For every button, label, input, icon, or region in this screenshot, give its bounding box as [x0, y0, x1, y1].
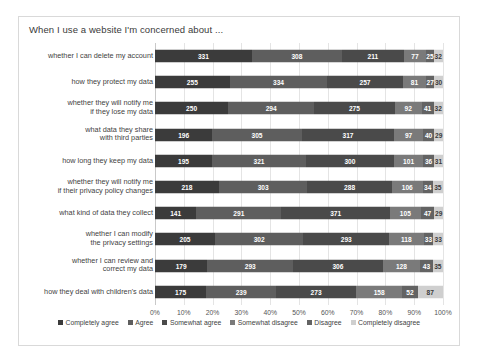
- x-tick-label: 60%: [321, 309, 335, 316]
- bar-segment: 106: [392, 181, 423, 194]
- legend-swatch-icon: [351, 320, 356, 325]
- category-label: what data they sharewith third parties: [25, 126, 153, 143]
- bar-segment: 43: [420, 259, 433, 272]
- bar-segment: 291: [196, 207, 281, 220]
- bar-segment: 52: [402, 285, 417, 298]
- legend-label: Somewhat agree: [170, 319, 221, 326]
- bar-segment: 32: [434, 102, 443, 115]
- category-label: whether I can delete my account: [25, 52, 153, 61]
- bar-segment: 77: [404, 50, 427, 63]
- bar-segment: 141: [155, 207, 196, 220]
- x-tick-label: 70%: [350, 309, 364, 316]
- bar-segment: 87: [418, 285, 443, 298]
- legend-item[interactable]: Somewhat disagree: [230, 319, 298, 326]
- x-tick-label: 30%: [235, 309, 249, 316]
- stacked-bar: 255334257812730: [155, 76, 443, 89]
- bar-segment: 293: [207, 259, 293, 272]
- bar-segment: 294: [228, 102, 314, 115]
- legend-label: Completely agree: [65, 319, 118, 326]
- legend-swatch-icon: [307, 320, 312, 325]
- chart-row: whether they will notify meif their priv…: [19, 174, 459, 200]
- category-label: whether I can modifythe privacy settings: [25, 231, 153, 248]
- bar-segment: 288: [307, 181, 391, 194]
- bar-segment: 105: [390, 207, 421, 220]
- bar-segment: 29: [434, 207, 442, 220]
- legend-item[interactable]: Disagree: [307, 319, 342, 326]
- bar-segment: 175: [155, 285, 206, 298]
- bar-segment: 35: [433, 259, 443, 272]
- bar-segment: 331: [155, 50, 252, 63]
- legend-swatch-icon: [128, 320, 133, 325]
- legend-swatch-icon: [230, 320, 235, 325]
- stacked-bar: 2053022931183333: [155, 233, 443, 246]
- bar-segment: 30: [434, 76, 443, 89]
- legend-item[interactable]: Completely disagree: [351, 319, 420, 326]
- stacked-bar: 1953213001013631: [155, 154, 443, 167]
- legend-item[interactable]: Somewhat agree: [162, 319, 221, 326]
- bar-segment: 118: [389, 233, 424, 246]
- bar-segment: 47: [421, 207, 435, 220]
- bar-segment: 293: [303, 233, 389, 246]
- legend-swatch-icon: [58, 320, 63, 325]
- bar-segment: 32: [434, 50, 443, 63]
- x-tick-label: 20%: [206, 309, 220, 316]
- legend-label: Agree: [135, 319, 153, 326]
- bar-segment: 31: [434, 154, 443, 167]
- chart-row: whether I can review andcorrect my data1…: [19, 253, 459, 279]
- x-tick-label: 10%: [177, 309, 191, 316]
- category-label: whether they will notify meif they lose …: [25, 100, 153, 117]
- stacked-bar: 1792933061284335: [155, 259, 443, 272]
- legend-label: Completely disagree: [358, 319, 420, 326]
- bar-segment: 33: [433, 233, 443, 246]
- stacked-bar: 2183032881063435: [155, 181, 443, 194]
- bar-segment: 36: [423, 154, 434, 167]
- x-tick-label: 0%: [150, 309, 160, 316]
- x-tick-label: 50%: [292, 309, 306, 316]
- category-label: how they deal with children's data: [25, 287, 153, 296]
- legend-item[interactable]: Completely agree: [58, 319, 119, 326]
- chart-card: When I use a website I'm concerned about…: [18, 16, 460, 346]
- bar-segment: 158: [356, 285, 402, 298]
- bar-rows: whether I can delete my account331308211…: [19, 43, 459, 305]
- chart-row: how they protect my data255334257812730: [19, 69, 459, 95]
- bar-segment: 239: [206, 285, 276, 298]
- x-tick-label: 80%: [379, 309, 393, 316]
- bar-segment: 218: [155, 181, 219, 194]
- chart-row: what kind of data they collect1412913711…: [19, 200, 459, 226]
- x-tick-label: 40%: [263, 309, 277, 316]
- bar-segment: 308: [252, 50, 342, 63]
- chart-title: When I use a website I'm concerned about…: [29, 24, 223, 35]
- legend-item[interactable]: Agree: [128, 319, 154, 326]
- chart-row: whether they will notify meif they lose …: [19, 95, 459, 121]
- bar-segment: 92: [395, 102, 422, 115]
- bar-segment: 101: [394, 154, 424, 167]
- bar-segment: 25: [426, 50, 433, 63]
- bar-segment: 317: [302, 128, 395, 141]
- chart-row: whether I can delete my account331308211…: [19, 43, 459, 69]
- category-label: whether they will notify meif their priv…: [25, 178, 153, 195]
- plot-area: whether I can delete my account331308211…: [19, 43, 459, 309]
- bar-segment: 97: [394, 128, 422, 141]
- bar-segment: 128: [383, 259, 420, 272]
- bar-segment: 257: [327, 76, 402, 89]
- bar-segment: 334: [230, 76, 328, 89]
- bar-segment: 300: [306, 154, 394, 167]
- chart-row: what data they sharewith third parties19…: [19, 122, 459, 148]
- bar-segment: 41: [422, 102, 434, 115]
- stacked-bar: 196305317974029: [155, 128, 443, 141]
- bar-segment: 205: [155, 233, 215, 246]
- legend: Completely agreeAgreeSomewhat agreeSomew…: [19, 319, 459, 326]
- bar-segment: 27: [426, 76, 434, 89]
- x-tick-label: 90%: [407, 309, 421, 316]
- bar-segment: 255: [155, 76, 230, 89]
- x-tick-label: 100%: [434, 309, 451, 316]
- chart-row: whether I can modifythe privacy settings…: [19, 226, 459, 252]
- bar-segment: 306: [293, 259, 383, 272]
- stacked-bar: 250294275924132: [155, 102, 443, 115]
- bar-segment: 34: [423, 181, 433, 194]
- bar-segment: 305: [212, 128, 301, 141]
- bar-segment: 302: [215, 233, 303, 246]
- category-label: whether I can review andcorrect my data: [25, 257, 153, 274]
- stacked-bar: 331308211772532: [155, 50, 443, 63]
- legend-label: Somewhat disagree: [238, 319, 298, 326]
